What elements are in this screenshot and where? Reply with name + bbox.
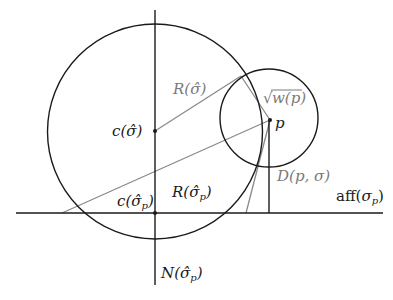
power-distance-diagram: R(σ̂) c(σ̂) √ w(p) p c(σ̂p) R(σ̂p) D(p, … (0, 0, 393, 300)
label-sqrt-w-p: √ w(p) (263, 89, 306, 107)
label-c-sigma-hat-p: c(σ̂p) (117, 192, 154, 211)
label-p: p (275, 114, 285, 132)
point-c-sigma-hat-p (153, 211, 157, 215)
svg-text:w(p): w(p) (272, 89, 306, 107)
label-R-sigma-hat-p: R(σ̂p) (171, 183, 212, 202)
label-R-sigma-hat: R(σ̂) (172, 80, 206, 98)
point-c-sigma-hat (153, 129, 157, 133)
label-D-p-sigma: D(p, σ) (276, 167, 330, 185)
label-c-sigma-hat: c(σ̂) (112, 122, 143, 140)
point-p (268, 118, 272, 122)
label-aff-sigma-p: aff(σp) (336, 187, 384, 206)
label-N-sigma-hat-p: N(σ̂p) (160, 264, 203, 283)
